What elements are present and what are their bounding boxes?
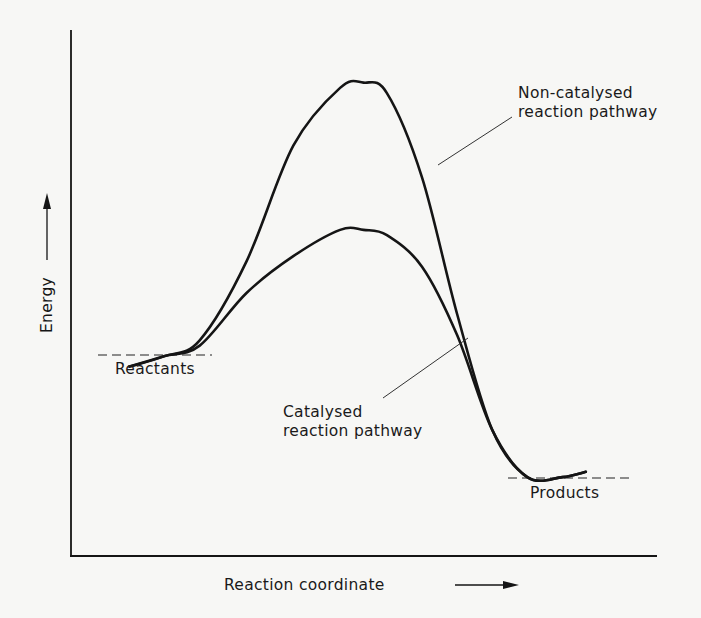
catalysed-leader-line [383, 338, 468, 398]
non-catalysed-label-line2: reaction pathway [518, 103, 658, 122]
catalysed-pathway-curve [130, 228, 586, 481]
reaction-coordinate-right-arrow-icon [455, 581, 519, 589]
catalysed-label-line2: reaction pathway [283, 422, 423, 441]
non-catalysed-label-line1: Non-catalysed [518, 84, 633, 103]
x-axis-label: Reaction coordinate [224, 576, 385, 595]
reactants-label: Reactants [115, 360, 195, 379]
catalysed-label-line1: Catalysed [283, 403, 363, 422]
energy-up-arrow-icon [43, 193, 51, 260]
y-axis-label: Energy [38, 277, 56, 333]
non-catalysed-leader-line [438, 117, 512, 165]
products-label: Products [530, 484, 599, 503]
